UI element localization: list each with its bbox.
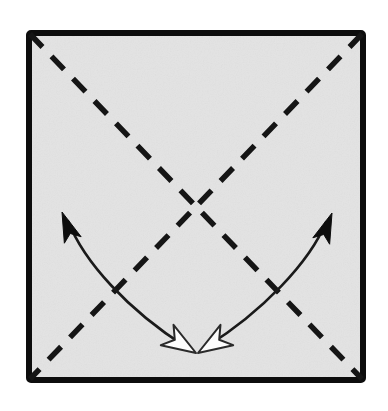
origami-diagram — [0, 0, 388, 411]
diagram-canvas — [0, 0, 388, 411]
